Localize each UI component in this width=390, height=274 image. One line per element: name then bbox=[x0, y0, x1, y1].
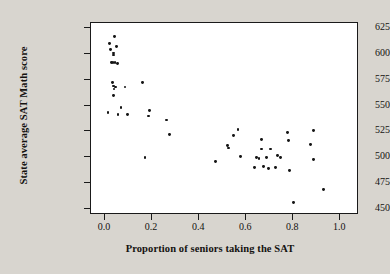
x-tick-label: 0.2 bbox=[131, 222, 171, 232]
x-tick-mark bbox=[104, 214, 105, 220]
x-axis-ticks: 0.00.20.40.60.81.0 bbox=[0, 0, 390, 274]
scatter-plot-figure: State average SAT Math score 45047550052… bbox=[0, 0, 390, 274]
x-tick-label: 0.6 bbox=[225, 222, 265, 232]
x-tick-mark bbox=[151, 214, 152, 220]
x-tick-mark bbox=[292, 214, 293, 220]
x-tick-label: 0.4 bbox=[178, 222, 218, 232]
x-tick-mark bbox=[339, 214, 340, 220]
x-tick-mark bbox=[198, 214, 199, 220]
x-tick-label: 0.8 bbox=[272, 222, 312, 232]
x-axis-title: Proportion of seniors taking the SAT bbox=[60, 243, 360, 254]
x-tick-mark bbox=[245, 214, 246, 220]
x-tick-label: 1.0 bbox=[319, 222, 359, 232]
x-tick-label: 0.0 bbox=[84, 222, 124, 232]
